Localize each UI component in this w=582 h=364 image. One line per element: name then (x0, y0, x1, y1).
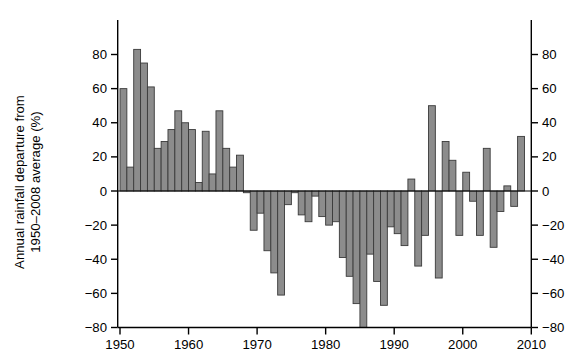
bar (168, 130, 175, 191)
bar (339, 191, 346, 258)
bar (442, 142, 449, 191)
bar (511, 191, 518, 206)
y-tick-label-right: −60 (542, 286, 564, 301)
y-tick-label-left: −20 (85, 218, 107, 233)
bar (127, 167, 134, 191)
bar (216, 111, 223, 191)
bar (161, 142, 168, 191)
bar (408, 179, 415, 191)
y-axis-title: Annual rainfall departure from 1950–2008… (0, 0, 56, 364)
y-tick-label-left: 80 (92, 47, 107, 62)
bar (518, 136, 525, 191)
bar (223, 148, 230, 191)
bar (333, 191, 340, 222)
bar (175, 111, 182, 191)
bar (346, 191, 353, 276)
bar (147, 87, 154, 191)
bar (326, 191, 333, 225)
bar (182, 123, 189, 191)
x-tick-label: 1990 (380, 337, 409, 352)
bar (319, 191, 326, 217)
bar (387, 191, 394, 227)
bar (463, 172, 470, 191)
bar (422, 191, 429, 235)
bar (497, 191, 504, 211)
bar (470, 191, 477, 201)
y-tick-label-left: 40 (92, 115, 107, 130)
bar (483, 148, 490, 191)
y-axis-right: 806040200−20−40−60−80 (531, 47, 564, 335)
y-tick-label-left: −40 (85, 252, 107, 267)
y-tick-label-left: −80 (85, 320, 107, 335)
bar (237, 155, 244, 191)
bar (195, 182, 202, 191)
bar (209, 174, 216, 191)
y-tick-label-right: 0 (542, 184, 549, 199)
y-tick-label-right: 80 (542, 47, 557, 62)
bar (230, 167, 237, 191)
x-tick-label: 2000 (448, 337, 477, 352)
y-tick-label-right: 60 (542, 81, 557, 96)
bar (264, 191, 271, 251)
bar (394, 191, 401, 234)
bar (141, 63, 148, 191)
bar (504, 186, 511, 191)
bar (257, 191, 264, 213)
bar (380, 191, 387, 305)
y-tick-label-right: 40 (542, 115, 557, 130)
bar (134, 49, 141, 191)
y-tick-label-right: −40 (542, 252, 564, 267)
bar (120, 89, 127, 191)
chart-svg: 806040200−20−40−60−80806040200−20−40−60−… (75, 16, 582, 358)
bar (360, 191, 367, 328)
bar (401, 191, 408, 246)
bar (298, 191, 305, 215)
bar-series (120, 49, 524, 327)
y-tick-label-left: 0 (100, 184, 107, 199)
y-tick-label-left: 20 (92, 149, 107, 164)
bar (476, 191, 483, 235)
bar (428, 106, 435, 191)
bar (312, 191, 319, 196)
bar (154, 148, 161, 191)
bar (305, 191, 312, 222)
y-axis-left: 806040200−20−40−60−80 (85, 47, 118, 335)
bar (202, 131, 209, 191)
bar (271, 191, 278, 273)
y-tick-label-left: −60 (85, 286, 107, 301)
bar (435, 191, 442, 278)
bar (189, 130, 196, 191)
bar (490, 191, 497, 247)
bar (353, 191, 360, 304)
y-tick-label-right: −80 (542, 320, 564, 335)
bar (456, 191, 463, 235)
x-tick-label: 2010 (517, 337, 546, 352)
bar (374, 191, 381, 281)
bar (250, 191, 257, 230)
x-tick-label: 1970 (242, 337, 271, 352)
x-tick-label: 1980 (311, 337, 340, 352)
bar (415, 191, 422, 266)
x-tick-label: 1960 (174, 337, 203, 352)
bar (449, 160, 456, 191)
x-axis: 1950196019701980199020002010 (105, 328, 546, 352)
rainfall-departure-bar-chart: Annual rainfall departure from 1950–2008… (0, 0, 582, 364)
x-tick-label: 1950 (105, 337, 134, 352)
y-tick-label-right: 20 (542, 149, 557, 164)
y-tick-label-left: 60 (92, 81, 107, 96)
plot-area: 806040200−20−40−60−80806040200−20−40−60−… (75, 16, 582, 358)
bar (367, 191, 374, 254)
bar (285, 191, 292, 205)
bar (278, 191, 285, 295)
y-tick-label-right: −20 (542, 218, 564, 233)
